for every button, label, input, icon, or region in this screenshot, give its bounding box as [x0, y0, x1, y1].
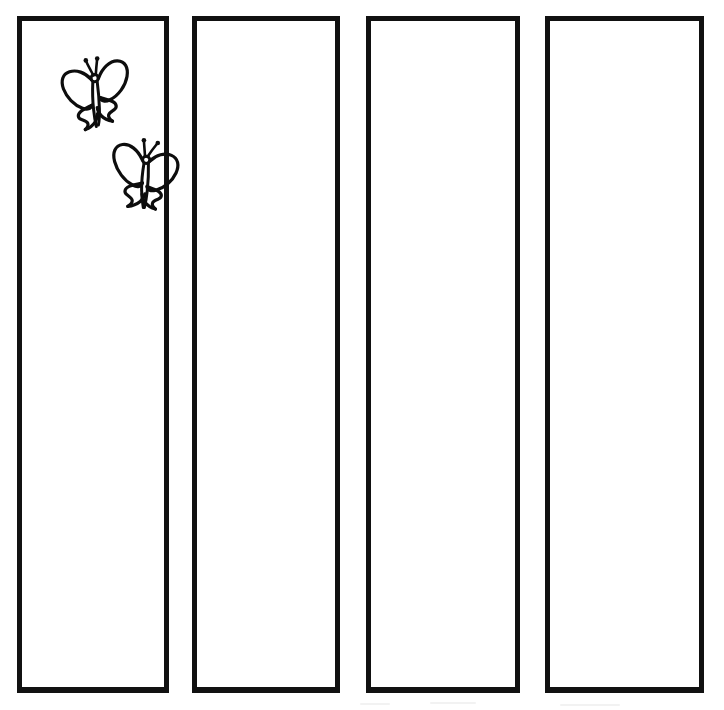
scan-artifact — [430, 702, 476, 704]
strip-2-label — [197, 21, 198, 22]
bookmark-strip-3[interactable] — [366, 16, 520, 693]
scan-artifact — [560, 704, 620, 706]
strip-1-label — [22, 21, 23, 22]
strip-3-label — [371, 21, 372, 22]
strip-4-label — [550, 21, 551, 22]
bookmark-strip-4[interactable] — [545, 16, 704, 693]
page-title: Butterfly Bookmark Strips Template — [0, 21, 1, 22]
butterfly-icon — [55, 49, 139, 133]
scan-artifact — [360, 703, 390, 705]
butterfly-icon — [101, 130, 189, 218]
bookmark-strip-2[interactable] — [192, 16, 340, 693]
worksheet-page: Butterfly Bookmark Strips Template — [0, 0, 724, 710]
bookmark-strip-1[interactable] — [17, 16, 169, 693]
